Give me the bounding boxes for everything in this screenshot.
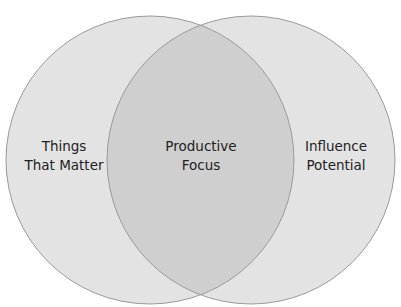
label-influence-potential: Influence Potential <box>305 137 367 175</box>
label-line: Influence <box>305 137 367 156</box>
label-line: That Matter <box>24 156 103 175</box>
label-things-that-matter: Things That Matter <box>24 137 103 175</box>
label-line: Focus <box>165 156 236 175</box>
label-productive-focus: Productive Focus <box>165 137 236 175</box>
label-line: Potential <box>305 156 367 175</box>
label-line: Things <box>24 137 103 156</box>
label-line: Productive <box>165 137 236 156</box>
